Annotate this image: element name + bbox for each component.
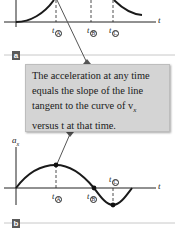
panel-b-graph	[4, 147, 156, 207]
panel-b-tick-tA: tA	[52, 191, 62, 203]
panel-b-max-point	[54, 163, 59, 168]
callout-line-1: The acceleration at any time	[32, 68, 165, 83]
panel-a-x-axis-label: t	[158, 15, 161, 25]
callout-leader-bottom	[57, 134, 70, 164]
panel-b-y-axis-label: ax	[12, 135, 19, 147]
panel-b-tick-tB: tB	[87, 191, 97, 203]
panel-b-x-axis-label: t	[158, 181, 161, 191]
panel-a-curve-rising	[16, 0, 54, 22]
panel-a-graph	[4, 0, 156, 27]
panel-a-label: a	[12, 51, 20, 60]
panel-a-curve-falling	[114, 0, 142, 15]
callout-line-3: tangent to the curve of vx	[32, 98, 165, 118]
panel-b-tick-tC: tC	[109, 174, 119, 186]
panel-a-tick-tB: tB	[87, 25, 97, 37]
panel-a-tick-tC: tC	[109, 25, 119, 37]
panel-b-label: b	[12, 219, 20, 228]
panel-b-zero-point	[92, 186, 97, 191]
callout-box: The acceleration at any time equals the …	[25, 64, 170, 132]
callout-line-4: versus t at that time.	[32, 118, 165, 133]
panel-a-tick-tA: tA	[52, 25, 62, 37]
panel-b-min-point	[111, 203, 116, 208]
callout-line-2: equals the slope of the line	[32, 83, 165, 98]
